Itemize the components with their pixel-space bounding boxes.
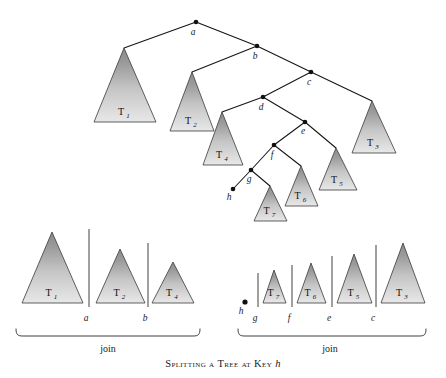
tree-subtree-t7: T7: [254, 186, 287, 221]
tree-edge-e-T5: [305, 122, 336, 148]
tree-node-label: d: [259, 102, 264, 112]
tree-node-e: e: [301, 120, 307, 136]
tree-node-label: h: [227, 192, 232, 202]
tree-node-dot: [231, 187, 236, 192]
split-divider-key-label: f: [288, 313, 292, 323]
tree-node-dot: [309, 70, 314, 75]
subtree-label: T: [304, 287, 310, 298]
tree-node-dot: [272, 143, 277, 148]
split-left-subtree-t1: T1: [22, 232, 83, 303]
split-divider-f: f: [288, 265, 292, 323]
tree-edge-f-T6: [274, 145, 301, 166]
subtree-label-subscript: 7: [276, 293, 280, 301]
split-brace-left: join: [16, 329, 200, 354]
subtree-triangle-shape: [94, 48, 156, 122]
figure-caption: Splitting a Tree at Key h: [0, 358, 446, 369]
subtree-label: T: [294, 190, 300, 201]
subtree-triangle-shape: [352, 101, 396, 153]
split-divider-key-label: b: [143, 313, 148, 323]
figure-splitting-a-tree: T1T2T3T4T5T6T7 abcdefgh T1T2T4abjoin T7T…: [0, 0, 446, 378]
subtree-label: T: [367, 137, 373, 148]
tree-node-a: a: [191, 20, 199, 37]
subtree-label: T: [216, 149, 222, 160]
subtree-label: T: [331, 174, 337, 185]
tree-edge-a-b: [196, 22, 257, 46]
subtree-label-subscript: 2: [193, 121, 197, 129]
split-brace-path: [238, 329, 426, 336]
tree-subtree-t3: T3: [352, 101, 396, 153]
tree-edge-d-T4: [222, 97, 263, 112]
tree-subtree-t6: T6: [285, 166, 318, 206]
tree-node-dot: [194, 20, 199, 25]
subtree-label: T: [118, 106, 124, 117]
split-divider-b: b: [143, 243, 148, 323]
subtree-label-subscript: 5: [339, 180, 343, 188]
subtree-label-subscript: 3: [403, 293, 408, 301]
split-right-subtree-t3: T3: [381, 243, 425, 303]
split-divider-key-label: c: [371, 313, 376, 323]
tree-subtree-t1: T1: [94, 48, 156, 122]
subtree-label: T: [263, 205, 269, 216]
split-node-h-dot: [242, 299, 247, 304]
split-brace-path: [16, 329, 200, 336]
split-divider-key-label: g: [253, 313, 258, 323]
subtree-triangle-shape: [96, 249, 145, 303]
tree-node-label: f: [271, 150, 275, 160]
tree-node-label: c: [307, 77, 312, 87]
subtree-triangle-shape: [297, 263, 326, 303]
split-right-subtree-t5: T5: [337, 254, 372, 303]
subtree-label: T: [45, 287, 51, 298]
subtree-triangle-shape: [254, 186, 287, 221]
split-right-subtree-t6: T6: [297, 263, 326, 303]
subtree-label: T: [267, 287, 273, 298]
subtree-label: T: [185, 115, 191, 126]
subtree-triangle-shape: [337, 254, 372, 303]
tree-node-label: e: [301, 126, 305, 136]
split-right-group: T7T6T5T3gfechjoin: [238, 243, 426, 354]
split-divider-a: a: [84, 229, 89, 323]
split-node-h-label: h: [239, 306, 244, 316]
tree-edge-g-T7: [251, 170, 270, 186]
tree-node-c: c: [307, 70, 313, 87]
tree-subtree-t2: T2: [170, 72, 214, 131]
split-join-label: join: [321, 343, 338, 354]
subtree-label-subscript: 2: [122, 293, 126, 301]
diagram-canvas: T1T2T3T4T5T6T7 abcdefgh T1T2T4abjoin T7T…: [0, 0, 446, 378]
split-left-group: T1T2T4abjoin: [16, 229, 200, 354]
subtree-label: T: [347, 287, 353, 298]
subtree-label-subscript: 4: [224, 155, 228, 163]
tree-node-dot: [249, 168, 254, 173]
tree-edge-b-T2: [192, 46, 257, 72]
split-divider-e: e: [327, 256, 332, 323]
split-left-subtree-t2: T2: [96, 249, 145, 303]
split-node-h: h: [239, 299, 248, 316]
split-brace-right: join: [238, 329, 426, 354]
split-right-subtree-t7: T7: [263, 270, 286, 303]
tree-node-label: g: [247, 174, 252, 184]
caption-text: Splitting a Tree at Key: [165, 358, 275, 369]
subtree-label: T: [396, 287, 402, 298]
split-divider-key-label: a: [84, 313, 89, 323]
subtree-label: T: [113, 287, 119, 298]
subtree-label-subscript: 7: [272, 211, 276, 219]
tree-node-h: h: [227, 187, 236, 202]
subtree-triangle-shape: [319, 148, 357, 190]
subtree-label-subscript: 6: [303, 196, 307, 204]
tree-node-label: b: [253, 51, 258, 61]
tree-edge-a-T1: [124, 22, 196, 48]
subtree-triangle-shape: [152, 262, 194, 303]
subtree-triangle-shape: [170, 72, 214, 131]
subtree-triangle-shape: [381, 243, 425, 303]
tree-edge-c-T3: [311, 72, 372, 101]
subtree-label-subscript: 1: [54, 293, 58, 301]
split-divider-c: c: [371, 245, 376, 323]
tree-node-dot: [261, 95, 266, 100]
tree-edge-d-e: [263, 97, 305, 122]
split-left-subtree-t4: T4: [152, 262, 194, 303]
caption-key: h: [275, 358, 281, 369]
subtree-label: T: [166, 287, 172, 298]
subtree-label-subscript: 1: [126, 112, 130, 120]
tree-edge-c-d: [263, 72, 311, 97]
subtree-label-subscript: 6: [313, 293, 317, 301]
split-divider-key-label: e: [327, 313, 331, 323]
